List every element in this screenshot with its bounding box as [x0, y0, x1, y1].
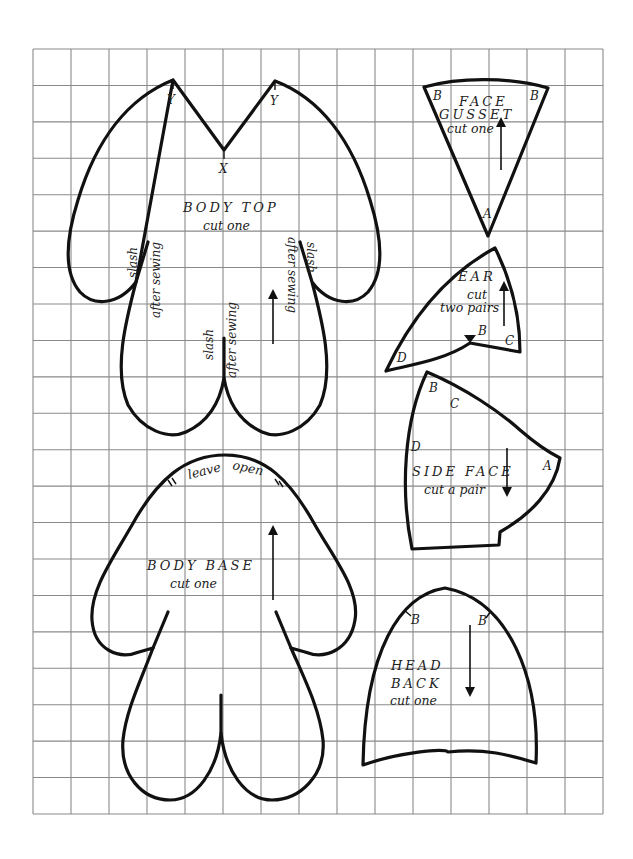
- mark-b: B: [428, 381, 438, 395]
- opening-note-open: open: [231, 457, 264, 478]
- body-top-instruction: cut one: [203, 218, 250, 233]
- body-top-outline: [68, 80, 380, 435]
- mark-b: B: [477, 324, 487, 338]
- ear-title: EAR: [457, 269, 496, 284]
- body-base-right-slash: [276, 612, 291, 648]
- mark-d: D: [410, 440, 421, 454]
- mark-y-right: Y: [270, 94, 279, 108]
- slash-note-center-1: slash: [202, 329, 216, 360]
- grain-arrow-body-base: [268, 525, 278, 600]
- piece-body-top: Y Y X BODY TOP cut one slash after sewin…: [68, 80, 380, 435]
- body-base-title: BODY BASE: [146, 558, 255, 573]
- side-face-title: SIDE FACE: [412, 464, 514, 479]
- mark-b-left: B: [432, 89, 442, 103]
- ear-instruction-2: two pairs: [440, 300, 499, 315]
- grain-arrow-body-top: [268, 289, 278, 344]
- side-face-instruction: cut a pair: [424, 482, 486, 497]
- body-top-title: BODY TOP: [182, 200, 279, 215]
- body-base-instruction: cut one: [170, 576, 217, 591]
- mark-b-left: B: [410, 613, 420, 627]
- head-back-title-2: BACK: [390, 676, 442, 691]
- opening-notch-left: [168, 478, 176, 486]
- mark-y-left: Y: [167, 93, 176, 107]
- mark-b-right: B: [477, 614, 487, 628]
- piece-ear: B C D EAR cut two pairs: [386, 248, 520, 371]
- mark-a: A: [482, 207, 492, 221]
- mark-c: C: [505, 334, 514, 348]
- grain-arrow-head-back: [465, 625, 475, 697]
- mark-c: C: [450, 397, 459, 411]
- face-gusset-title-2: GUSSET: [439, 107, 514, 122]
- piece-body-base: leave open BODY BASE cut one: [92, 455, 356, 800]
- piece-head-back: B B HEAD BACK cut one: [363, 588, 536, 765]
- head-back-instruction: cut one: [390, 693, 437, 708]
- slash-note-right-1: slash: [304, 242, 318, 273]
- head-back-title-1: HEAD: [390, 658, 444, 673]
- head-back-outline: [363, 588, 536, 765]
- slash-note-left-1: slash: [126, 247, 140, 278]
- mark-d: D: [396, 351, 407, 365]
- b-left-notch: [404, 610, 411, 616]
- body-base-left-slash: [153, 612, 168, 648]
- slash-note-right-2: after sewing: [285, 237, 299, 313]
- mark-a: A: [542, 459, 552, 473]
- body-base-outline: [92, 455, 356, 800]
- face-gusset-instruction: cut one: [447, 121, 494, 136]
- mark-b-right: B: [529, 89, 539, 103]
- mark-x: X: [218, 162, 228, 176]
- pattern-sheet: Y Y X BODY TOP cut one slash after sewin…: [0, 0, 633, 859]
- slash-note-center-2: after sewing: [225, 302, 239, 378]
- ear-notch-b: [464, 335, 476, 343]
- slash-note-left-2: after sewing: [149, 242, 163, 318]
- grain-arrow-face-gusset: [496, 117, 506, 170]
